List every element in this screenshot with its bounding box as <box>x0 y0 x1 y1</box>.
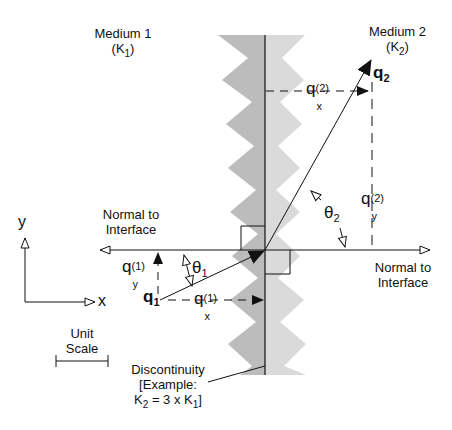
theta2-label: θ2 <box>324 204 340 227</box>
qx1-label: q(1)x <box>194 290 221 307</box>
medium2-name: Medium 2 <box>360 24 435 39</box>
q1-label: q1 <box>143 288 160 311</box>
medium1-label: Medium 1 (K1) <box>88 26 158 61</box>
normal-right-label: Normal to Interface <box>368 260 438 290</box>
normal-left-label: Normal to Interface <box>96 207 166 237</box>
y-axis-label: y <box>18 214 26 229</box>
medium1-conductivity: (K1) <box>88 41 158 61</box>
qx2-label: q(2)x <box>306 80 333 97</box>
medium1-name: Medium 1 <box>88 26 158 41</box>
theta1-label: θ1 <box>192 259 208 282</box>
theta1-arc-arrow <box>184 255 192 286</box>
medium2-band <box>265 35 306 375</box>
discontinuity-label: Discontinuity [Example: K2 = 3 x K1] <box>126 362 210 412</box>
theta2-arrow-upper <box>311 191 321 200</box>
theta2-arrow-lower <box>340 228 345 247</box>
qy1-label: q(1)y <box>122 258 149 275</box>
unit-scale-bar <box>56 355 108 367</box>
qy2-label: q(2)y <box>361 190 388 207</box>
x-axis-label: x <box>98 293 106 308</box>
medium2-label: Medium 2 (K2) <box>360 24 435 59</box>
medium2-conductivity: (K2) <box>360 39 435 59</box>
medium1-band <box>218 35 265 375</box>
unit-scale-label: Unit Scale <box>52 326 112 356</box>
q2-label: q2 <box>373 64 390 87</box>
